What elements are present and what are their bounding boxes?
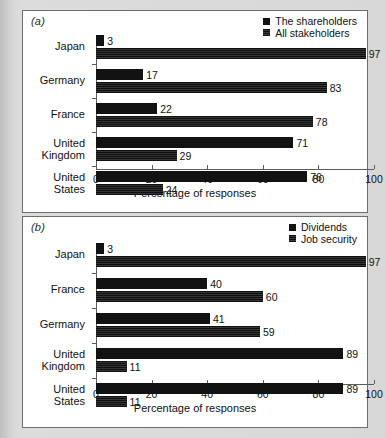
bar <box>96 116 313 127</box>
bar-value-label: 3 <box>107 243 113 255</box>
legend-swatch-icon <box>263 18 270 25</box>
bar-value-label: 59 <box>263 326 275 338</box>
legend-swatch-icon <box>289 235 296 242</box>
bar <box>96 291 263 302</box>
plot-area-a: The shareholdersAll stakeholders02040608… <box>23 11 367 212</box>
plot-area-b: DividendsJob security020406080100Percent… <box>23 217 367 427</box>
legend-item[interactable]: The shareholders <box>263 16 357 27</box>
y-axis-category-label: Japan <box>23 249 89 261</box>
legend-label: Dividends <box>301 222 347 233</box>
bar <box>96 313 210 324</box>
bar-value-label: 17 <box>146 69 158 81</box>
bar <box>96 278 207 289</box>
bar-value-label: 60 <box>266 291 278 303</box>
x-axis-line <box>96 169 374 170</box>
bar-value-label: 89 <box>346 383 358 395</box>
bar-value-label: 24 <box>166 184 178 196</box>
y-axis-category-label: France <box>23 284 89 296</box>
y-axis-tick <box>92 98 96 99</box>
x-axis-tick <box>96 165 97 169</box>
legend-swatch-icon <box>289 224 296 231</box>
bar <box>96 383 343 394</box>
legend-label: All stakeholders <box>275 28 349 39</box>
bar <box>96 326 260 337</box>
y-axis-tick <box>92 273 96 274</box>
chart-panel-a: (a) The shareholdersAll stakeholders0204… <box>22 10 368 213</box>
y-axis-category-label: Germany <box>23 319 89 331</box>
bar-value-label: 83 <box>330 82 342 94</box>
y-axis-tick <box>92 132 96 133</box>
bar <box>96 396 127 407</box>
y-axis-category-label: France <box>23 109 89 121</box>
bar <box>96 35 104 46</box>
chart-legend: The shareholdersAll stakeholders <box>263 16 357 38</box>
y-axis-tick <box>92 166 96 167</box>
y-axis-category-label: United States <box>23 384 89 407</box>
y-axis-category-label: United States <box>23 172 89 195</box>
y-axis-category-label: Japan <box>23 41 89 53</box>
x-axis-tick <box>374 165 375 169</box>
bar <box>96 171 307 182</box>
bar <box>96 348 343 359</box>
bar-value-label: 71 <box>296 137 308 149</box>
bar <box>96 150 177 161</box>
legend-item[interactable]: Dividends <box>289 222 347 233</box>
bar <box>96 103 157 114</box>
x-axis-tick <box>207 165 208 169</box>
bar-value-label: 40 <box>210 278 222 290</box>
bar <box>96 82 327 93</box>
y-axis-tick <box>92 343 96 344</box>
bar <box>96 184 163 195</box>
bar-value-label: 11 <box>130 361 141 373</box>
bar <box>96 69 143 80</box>
bar-value-label: 41 <box>213 313 225 325</box>
legend-label: Job security <box>301 234 357 245</box>
bar-value-label: 3 <box>107 35 113 47</box>
chart-panel-b: (b) DividendsJob security020406080100Per… <box>22 216 368 428</box>
bar-value-label: 76 <box>310 171 322 183</box>
x-axis-tick-label: 100 <box>365 173 383 185</box>
legend-label: The shareholders <box>275 16 357 27</box>
bar <box>96 256 366 267</box>
bar-value-label: 89 <box>346 348 358 360</box>
y-axis-category-label: United Kingdom <box>23 349 89 372</box>
x-axis-tick <box>318 165 319 169</box>
y-axis-tick <box>92 308 96 309</box>
bar <box>96 137 293 148</box>
figure-canvas: (a) The shareholdersAll stakeholders0204… <box>0 0 385 438</box>
bar-value-label: 11 <box>130 396 141 408</box>
bar <box>96 243 104 254</box>
x-axis-tick <box>263 165 264 169</box>
chart-legend: DividendsJob security <box>289 222 357 244</box>
legend-item[interactable]: Job security <box>289 234 357 245</box>
legend-swatch-icon <box>263 29 270 36</box>
bar-value-label: 97 <box>369 256 381 268</box>
bar-value-label: 97 <box>369 48 381 60</box>
bar-value-label: 22 <box>160 103 172 115</box>
bar-value-label: 78 <box>316 116 328 128</box>
y-axis-category-label: United Kingdom <box>23 138 89 161</box>
bar-value-label: 29 <box>180 150 192 162</box>
legend-item[interactable]: All stakeholders <box>263 28 349 39</box>
bar <box>96 48 366 59</box>
x-axis-tick-label: 100 <box>365 388 383 400</box>
bar <box>96 361 127 372</box>
y-axis-category-label: Germany <box>23 75 89 87</box>
y-axis-tick <box>92 378 96 379</box>
y-axis-tick <box>92 64 96 65</box>
x-axis-tick <box>152 165 153 169</box>
x-axis-tick <box>374 380 375 384</box>
